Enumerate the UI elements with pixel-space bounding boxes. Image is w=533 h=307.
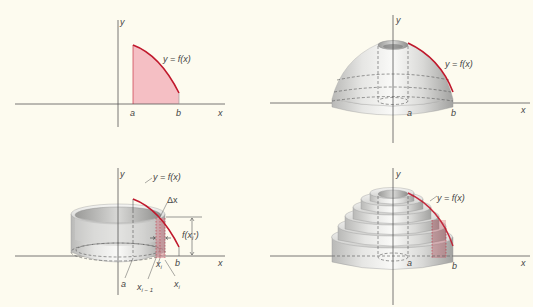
shell-strip [156,218,165,258]
y-axis-label: y [396,170,401,179]
curve-leader-line [430,196,437,201]
curve-label: y = f(x) [445,60,473,69]
x-axis-label: x [521,106,526,115]
panel-solid [270,15,530,143]
height-label: f(xi*) [182,231,199,241]
x-axis-label: x [218,259,223,268]
x-axis-label: x [218,109,223,118]
x-axis-label: x [521,259,526,268]
figure-stage: y y = f(x) a b x y y = f(x) a b x y y = … [0,0,533,307]
delta-x-label: Δx [167,196,178,205]
panel-stacked-shells [270,168,530,305]
a-label: a [130,109,135,118]
b-label: b [176,109,181,118]
b-label: b [452,262,457,271]
xi-label: xi [174,280,180,290]
y-axis-label: y [396,16,401,25]
curve-label: y = f(x) [163,55,191,64]
xi-star-label: xi [156,260,162,270]
a-label: a [121,280,126,289]
panel-region [15,20,225,127]
y-axis-label: y [120,18,125,27]
curve-label: y = f(x) [437,194,465,203]
y-axis-label: y [120,170,125,179]
b-label: b [175,259,180,268]
curve-label: y = f(x) [153,173,181,182]
xi-minus-1-label: xi − 1 [137,283,153,293]
a-label: a [407,259,412,268]
b-label: b [451,109,456,118]
a-label: a [407,109,412,118]
